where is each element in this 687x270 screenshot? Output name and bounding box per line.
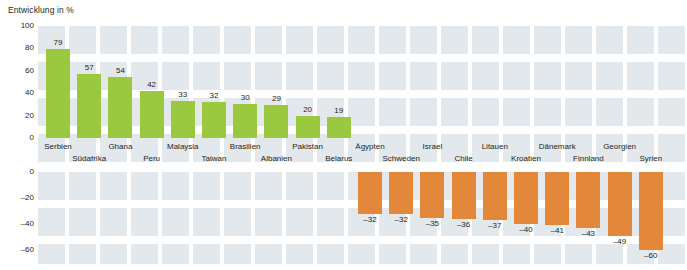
bar-value-label: –60 xyxy=(634,252,668,260)
bar-pos[interactable] xyxy=(296,116,320,138)
bar-neg[interactable] xyxy=(639,172,663,250)
y-axis-tick: –40 xyxy=(4,220,34,228)
bar-value-label: –43 xyxy=(571,230,605,238)
bar-neg[interactable] xyxy=(420,172,444,218)
bar-category-label: Schweden xyxy=(374,154,428,163)
bar-pos[interactable] xyxy=(264,105,288,138)
y-axis-tick: 60 xyxy=(4,67,34,75)
bar-value-label: 54 xyxy=(103,67,137,75)
background-band xyxy=(38,26,687,54)
chart-container: Entwicklung in % 1008060402000–20–40–60–… xyxy=(0,0,687,270)
bar-value-label: 79 xyxy=(41,39,75,47)
bar-neg[interactable] xyxy=(452,172,476,219)
bar-value-label: 32 xyxy=(197,92,231,100)
bar-category-label: Georgien xyxy=(593,142,647,151)
bar-category-label: Serbien xyxy=(31,142,85,151)
bar-value-label: –32 xyxy=(384,216,418,224)
bar-category-label: Ägypten xyxy=(343,142,397,151)
y-axis-tick: 80 xyxy=(4,44,34,52)
bar-value-label: –41 xyxy=(540,227,574,235)
bar-value-label: 33 xyxy=(166,91,200,99)
bar-category-label: Albanien xyxy=(249,154,303,163)
bar-value-label: 42 xyxy=(135,81,169,89)
bar-category-label: Israel xyxy=(405,142,459,151)
y-axis-tick: –60 xyxy=(4,246,34,254)
bar-value-label: –40 xyxy=(509,226,543,234)
bar-pos[interactable] xyxy=(108,77,132,138)
y-axis-tick: 20 xyxy=(4,112,34,120)
bar-value-label: –49 xyxy=(603,238,637,246)
bar-pos[interactable] xyxy=(77,74,101,138)
y-axis: 1008060402000–20–40–60–80 xyxy=(0,26,34,264)
bar-category-label: Belarus xyxy=(312,154,366,163)
bar-neg[interactable] xyxy=(483,172,507,220)
bar-category-label: Litauen xyxy=(468,142,522,151)
bar-pos[interactable] xyxy=(233,104,257,138)
bar-category-label: Chile xyxy=(437,154,491,163)
bar-pos[interactable] xyxy=(171,101,195,138)
y-axis-tick: 0 xyxy=(4,168,34,176)
bar-category-label: Ghana xyxy=(93,142,147,151)
bar-category-label: Kroatien xyxy=(499,154,553,163)
bar-pos[interactable] xyxy=(202,102,226,138)
bar-neg[interactable] xyxy=(576,172,600,228)
bar-category-label: Finnland xyxy=(561,154,615,163)
bar-value-label: 30 xyxy=(228,94,262,102)
bar-category-label: Brasilien xyxy=(218,142,272,151)
bar-category-label: Syrien xyxy=(624,154,678,163)
bar-neg[interactable] xyxy=(514,172,538,224)
y-axis-tick: 100 xyxy=(4,22,34,30)
bar-value-label: –37 xyxy=(478,222,512,230)
bar-category-label: Malaysia xyxy=(156,142,210,151)
bar-category-label: Dänemark xyxy=(530,142,584,151)
bar-category-label: Peru xyxy=(125,154,179,163)
plot-area: 79Serbien57Südafrika54Ghana42Peru33Malay… xyxy=(38,26,687,264)
bar-value-label: –32 xyxy=(353,216,387,224)
bar-value-label: 57 xyxy=(72,64,106,72)
background-band xyxy=(38,98,687,126)
bar-category-label: Südafrika xyxy=(62,154,116,163)
bar-neg[interactable] xyxy=(389,172,413,214)
bar-value-label: –35 xyxy=(415,220,449,228)
y-axis-tick: 40 xyxy=(4,89,34,97)
bar-value-label: 20 xyxy=(291,106,325,114)
chart-title: Entwicklung in % xyxy=(8,5,74,15)
bar-pos[interactable] xyxy=(140,91,164,138)
bar-neg[interactable] xyxy=(358,172,382,214)
bar-category-label: Taiwan xyxy=(187,154,241,163)
bar-neg[interactable] xyxy=(608,172,632,236)
bar-value-label: 29 xyxy=(259,95,293,103)
bar-category-label: Pakistan xyxy=(281,142,335,151)
background-band xyxy=(38,244,687,264)
y-axis-tick: –20 xyxy=(4,194,34,202)
bar-value-label: 19 xyxy=(322,107,356,115)
bar-value-label: –36 xyxy=(447,221,481,229)
bar-pos[interactable] xyxy=(327,117,351,138)
y-axis-tick: 0 xyxy=(4,134,34,142)
bar-pos[interactable] xyxy=(46,49,70,138)
bar-neg[interactable] xyxy=(545,172,569,225)
